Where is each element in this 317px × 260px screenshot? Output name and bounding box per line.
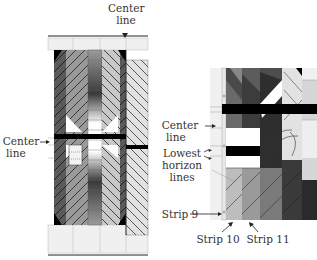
- label-strip-9: Strip 9: [160, 208, 200, 220]
- label-lowest-horizon-lines: Lowest horizon lines: [158, 147, 206, 183]
- quilt-diagram: [0, 0, 317, 260]
- label-strip-11: Strip 11: [246, 233, 290, 245]
- label-strip-10: Strip 10: [196, 233, 240, 245]
- right-panel: [190, 68, 317, 232]
- label-right-center-line: Center line: [160, 119, 200, 143]
- label-top-center-line: Center line: [108, 2, 144, 26]
- label-left-center-line: Center line: [2, 135, 40, 159]
- left-panel: [40, 33, 148, 255]
